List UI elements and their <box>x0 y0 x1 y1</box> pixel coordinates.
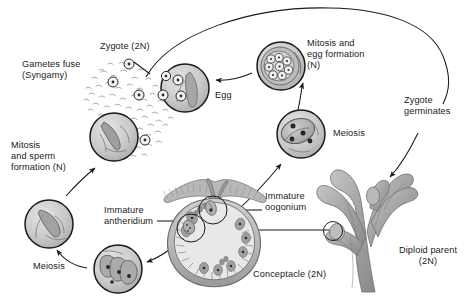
label-conceptacle-2n: Conceptacle (2N) <box>253 269 326 280</box>
label-zygote-germinates: Zygote germinates <box>404 95 450 117</box>
label-zygote-2n: Zygote (2N) <box>100 41 150 52</box>
label-gametes-fuse: Gametes fuse (Syngamy) <box>22 59 80 81</box>
arrow-eggformation-to-zygote <box>216 73 252 80</box>
cell-meiosis-oogonium <box>277 110 325 158</box>
cell-sperm-formation <box>25 200 73 248</box>
arrow-germination-to-parent <box>390 133 418 177</box>
cell-zygote <box>161 64 209 112</box>
label-egg: Egg <box>215 90 232 101</box>
diploid-parent-alga <box>317 170 418 292</box>
label-immature-oogonium: Immature oogonium <box>265 191 306 213</box>
conceptacle-structure <box>163 179 266 287</box>
label-meiosis-oogonium: Meiosis <box>333 128 365 139</box>
arrow-spermformation-to-syngamy <box>66 168 95 196</box>
cell-egg-formation <box>257 42 305 90</box>
life-cycle-diagram: Gametes fuse (Syngamy) Zygote (2N) Mitos… <box>0 0 476 307</box>
label-mitosis-egg-formation: Mitosis and egg formation (N) <box>307 38 364 72</box>
zygote-nucleus-2 <box>176 91 186 101</box>
cell-sperm-release <box>90 113 138 161</box>
label-meiosis-antheridium: Meiosis <box>33 261 65 272</box>
arrow-meiosis-to-eggformation <box>298 83 303 110</box>
zygote-nucleus-1 <box>173 75 183 85</box>
label-mitosis-sperm-formation: Mitosis and sperm formation (N) <box>11 140 66 174</box>
cell-meiosis-antheridium <box>94 245 142 293</box>
label-immature-antheridium: Immature antheridium <box>104 205 153 227</box>
label-diploid-parent: Diploid parent (2N) <box>385 245 471 267</box>
leader-zygote-label <box>134 62 150 74</box>
